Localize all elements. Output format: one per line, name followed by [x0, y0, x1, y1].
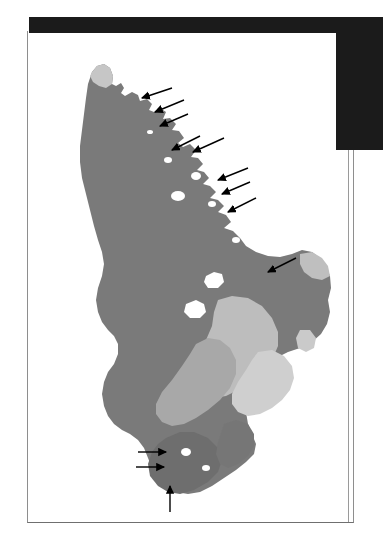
figure-page [0, 0, 383, 556]
scan-edge-line [348, 148, 349, 522]
figure-panel [27, 31, 354, 523]
scan-edge-band-right [336, 17, 383, 150]
scan-edge-band-top [29, 17, 354, 33]
